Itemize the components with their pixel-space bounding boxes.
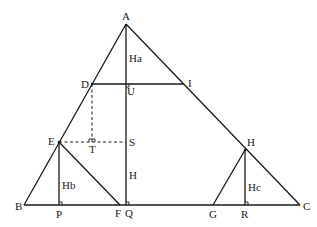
label-ha: Ha — [129, 52, 142, 64]
label-h-point: H — [247, 136, 255, 148]
label-p: P — [56, 208, 62, 220]
label-s: S — [129, 136, 135, 148]
point-d-dot — [91, 83, 93, 85]
label-hb: Hb — [62, 179, 76, 191]
label-f: F — [115, 207, 121, 219]
label-e: E — [48, 135, 55, 147]
segment-hg — [213, 150, 245, 205]
point-e-dot — [58, 141, 61, 144]
label-u: U — [127, 85, 135, 97]
label-hc: Hc — [248, 181, 261, 193]
label-r: R — [241, 208, 249, 220]
side-ac — [126, 24, 300, 205]
side-ab — [24, 24, 126, 205]
label-c: C — [303, 200, 310, 212]
label-g: G — [209, 208, 217, 220]
label-q: Q — [125, 207, 133, 219]
label-a: A — [122, 10, 130, 22]
label-i: I — [188, 77, 192, 89]
label-t: T — [89, 143, 96, 155]
point-h-dot — [244, 149, 247, 152]
geometry-diagram: A B C D U I E T S H P F Q G R Ha H Hb Hc — [0, 0, 317, 227]
label-b: B — [15, 200, 22, 212]
label-d: D — [81, 78, 89, 90]
label-h-segment: H — [129, 169, 137, 181]
